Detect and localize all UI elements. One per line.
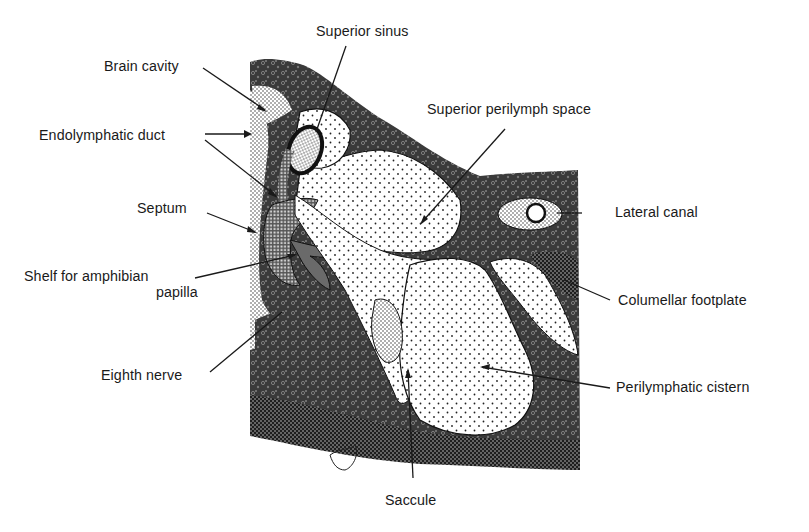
eighth-nerve-region <box>255 310 332 403</box>
label-lateral-canal: Lateral canal <box>615 203 698 221</box>
inner-ear-section-illustration <box>0 0 809 532</box>
label-perilymphatic-cistern: Perilymphatic cistern <box>616 378 749 396</box>
label-columellar-footplate: Columellar footplate <box>618 291 747 309</box>
label-septum: Septum <box>137 199 187 217</box>
label-superior-sinus: Superior sinus <box>316 22 408 40</box>
label-shelf-amphibian-papilla-line2: papilla <box>156 283 198 301</box>
label-saccule: Saccule <box>385 491 436 509</box>
label-shelf-amphibian-papilla-line1: Shelf for amphibian <box>24 267 149 285</box>
label-brain-cavity: Brain cavity <box>104 57 179 75</box>
label-eighth-nerve: Eighth nerve <box>101 366 182 384</box>
label-endolymphatic-duct: Endolymphatic duct <box>39 126 165 144</box>
label-superior-perilymph-space: Superior perilymph space <box>427 100 591 118</box>
lateral-canal-ring <box>527 204 545 222</box>
